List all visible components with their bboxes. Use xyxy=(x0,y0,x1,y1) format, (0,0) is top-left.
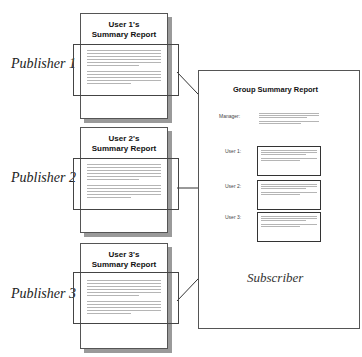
publisher-2-label: Publisher 2 xyxy=(11,170,76,186)
subscriber-user-2-box xyxy=(257,180,321,210)
doc-title-line2: Summary Report xyxy=(81,260,167,270)
row-label-user-2: User 2: xyxy=(225,183,241,189)
doc-title-line2: Summary Report xyxy=(81,144,167,154)
subscriber-document: Group Summary Report Manager: User 1: Us… xyxy=(198,70,360,329)
publisher-1-label: Publisher 1 xyxy=(11,56,76,72)
subscriber-label: Subscriber xyxy=(247,270,303,286)
publisher-3-selection xyxy=(73,272,179,324)
doc-title-line1: User 3's xyxy=(81,250,167,260)
publisher-3-label: Publisher 3 xyxy=(11,286,76,302)
doc-title-line1: User 1's xyxy=(81,20,167,30)
publisher-2-selection xyxy=(73,158,179,210)
subscriber-doc-title: Group Summary Report xyxy=(233,85,318,94)
publisher-2-doc-title: User 2's Summary Report xyxy=(81,134,167,154)
row-label-user-3: User 3: xyxy=(225,214,241,220)
subscriber-user-1-box xyxy=(257,146,321,176)
publisher-3-doc-title: User 3's Summary Report xyxy=(81,250,167,270)
subscriber-user-3-box xyxy=(257,212,321,242)
manager-text xyxy=(259,113,319,125)
publisher-1-doc-title: User 1's Summary Report xyxy=(81,20,167,40)
doc-title-line1: User 2's xyxy=(81,134,167,144)
row-label-manager: Manager: xyxy=(219,113,240,119)
publisher-1-selection xyxy=(73,44,179,96)
row-label-user-1: User 1: xyxy=(225,148,241,154)
doc-title-line2: Summary Report xyxy=(81,30,167,40)
